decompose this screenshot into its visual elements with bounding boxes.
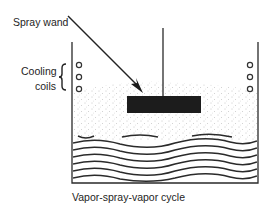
coils-label: coils [35,80,56,92]
spray-wand [68,16,143,93]
solvent-waves [73,134,257,181]
workpiece [127,96,201,113]
spray-wand-label: Spray wand [13,16,68,28]
cooling-coils-right [247,62,252,91]
cooling-coils-left [76,62,81,91]
cooling-label: Cooling [21,65,57,77]
degreaser-diagram [0,0,266,211]
diagram-caption: Vapor-spray-vapor cycle [72,191,185,203]
brace-icon [59,64,66,90]
